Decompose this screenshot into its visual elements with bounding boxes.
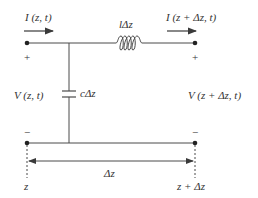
transmission-line-diagram: I (z, t) I (z + Δz, t) lΔz cΔz V (z, t) … [0, 0, 258, 198]
terminal-top-right [193, 41, 198, 46]
terminal-bottom-left [25, 141, 30, 146]
inductor-label: lΔz [119, 19, 133, 30]
voltage-in-label: V (z, t) [14, 90, 43, 101]
capacitor-label: cΔz [80, 88, 96, 99]
plus-left-label: + [24, 52, 30, 63]
plus-right-label: + [192, 52, 198, 63]
current-out-label: I (z + Δz, t) [166, 12, 216, 23]
position-left-label: z [24, 181, 28, 192]
minus-right-label: − [192, 127, 198, 138]
terminal-bottom-right [193, 141, 198, 146]
minus-left-label: − [24, 127, 30, 138]
length-label: Δz [104, 168, 115, 179]
current-in-label: I (z, t) [25, 12, 52, 23]
terminal-top-left [25, 41, 30, 46]
position-right-label: z + Δz [177, 181, 205, 192]
inductor-icon [116, 36, 145, 50]
capacitor-icon [62, 43, 76, 143]
voltage-out-label: V (z + Δz, t) [188, 90, 241, 101]
